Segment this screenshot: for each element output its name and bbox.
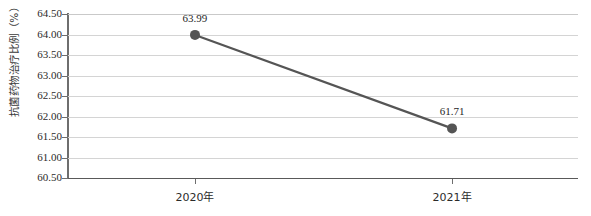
line-chart: 抗菌药物治疗比例（%） 64.5064.0063.5063.0062.5062.…: [0, 0, 591, 216]
data-point-marker: [190, 30, 200, 40]
data-series-layer: [0, 0, 591, 216]
series-line: [195, 35, 452, 128]
data-point-marker: [447, 123, 457, 133]
